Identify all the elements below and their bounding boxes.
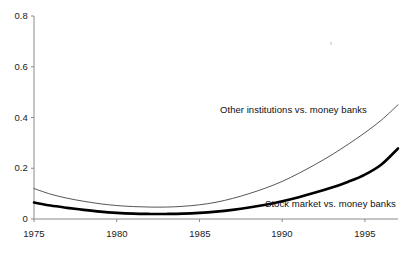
chart-container: 0.8 0.6 0.4 0.2 0 1975 1980 1985 1990 19… bbox=[0, 0, 413, 257]
annotation-other-institutions: Other institutions vs. money banks bbox=[220, 104, 367, 115]
y-tick-label-0.6: 0.6 bbox=[2, 61, 28, 72]
x-tick-label-1985: 1985 bbox=[180, 228, 220, 239]
series-line-other-institutions bbox=[34, 105, 398, 207]
y-tick-label-0.2: 0.2 bbox=[2, 162, 28, 173]
x-tick-label-1990: 1990 bbox=[262, 228, 302, 239]
x-tick-label-1975: 1975 bbox=[14, 228, 54, 239]
y-tick-label-0.8: 0.8 bbox=[2, 10, 28, 21]
scan-artifact-speck bbox=[330, 42, 332, 45]
chart-plot-area bbox=[0, 0, 413, 257]
annotation-stock-market: Stock market vs. money banks bbox=[265, 198, 396, 209]
y-tick-label-0: 0 bbox=[2, 213, 28, 224]
x-tick-label-1995: 1995 bbox=[345, 228, 385, 239]
x-tick-label-1980: 1980 bbox=[97, 228, 137, 239]
y-tick-label-0.4: 0.4 bbox=[2, 112, 28, 123]
